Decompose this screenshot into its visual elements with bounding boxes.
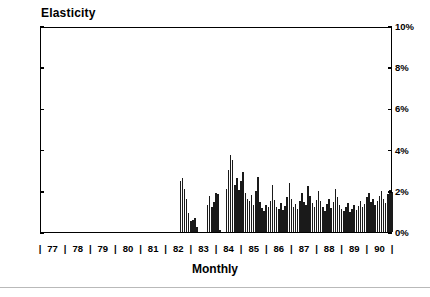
x-axis-separator: | — [114, 243, 117, 254]
y-axis-tick-label-right: 10% — [395, 21, 414, 32]
x-axis-tick-label: 82 — [173, 243, 184, 254]
x-axis-caption: Monthly — [0, 262, 430, 276]
bar — [217, 194, 219, 232]
bar-series — [41, 28, 391, 232]
x-axis-labels: |77|78|79|80|81|82|83|84|85|86|87|88|89|… — [0, 243, 430, 259]
y-axis-tick-mark — [40, 26, 44, 28]
y-axis-tick-mark — [388, 150, 392, 152]
x-axis-tick-label: 88 — [324, 243, 335, 254]
x-axis-tick-label: 77 — [47, 243, 58, 254]
x-axis-tick-label: 78 — [72, 243, 83, 254]
x-axis-tick-label: 85 — [248, 243, 259, 254]
y-axis-tick-mark — [388, 67, 392, 69]
y-axis-tick-label-right: 0% — [395, 227, 409, 238]
x-axis-tick-label: 83 — [198, 243, 209, 254]
bar — [219, 230, 221, 232]
x-axis-separator: | — [391, 243, 394, 254]
x-axis-tick-label: 80 — [123, 243, 134, 254]
x-axis-tick-label: 84 — [223, 243, 234, 254]
y-axis-tick-mark — [40, 232, 44, 234]
x-axis-separator: | — [240, 243, 243, 254]
chart-figure: Elasticity |77|78|79|80|81|82|83|84|85|8… — [0, 0, 430, 297]
y-axis-tick-label-right: 6% — [395, 103, 409, 114]
x-axis-separator: | — [215, 243, 218, 254]
x-axis-separator: | — [340, 243, 343, 254]
x-axis-separator: | — [190, 243, 193, 254]
x-axis-separator: | — [315, 243, 318, 254]
y-axis-tick-label-right: 4% — [395, 145, 409, 156]
chart-title: Elasticity — [41, 6, 96, 20]
x-axis-separator: | — [139, 243, 142, 254]
y-axis-tick-mark — [40, 191, 44, 193]
x-axis-tick-label: 89 — [349, 243, 360, 254]
x-axis-tick-label: 79 — [98, 243, 109, 254]
y-axis-tick-mark — [388, 109, 392, 111]
x-axis-separator: | — [290, 243, 293, 254]
x-axis-separator: | — [366, 243, 369, 254]
x-axis-tick-label: 86 — [274, 243, 285, 254]
y-axis-tick-mark — [388, 191, 392, 193]
x-axis-tick-label: 90 — [374, 243, 385, 254]
y-axis-tick-mark — [40, 109, 44, 111]
x-axis-separator: | — [89, 243, 92, 254]
bar — [196, 227, 198, 232]
bar — [391, 192, 393, 232]
x-axis-tick-label: 87 — [299, 243, 310, 254]
x-axis-separator: | — [39, 243, 42, 254]
x-axis-tick-label: 81 — [148, 243, 159, 254]
y-axis-tick-mark — [388, 26, 392, 28]
y-axis-tick-label-right: 2% — [395, 186, 409, 197]
x-axis-separator: | — [265, 243, 268, 254]
x-axis-separator: | — [64, 243, 67, 254]
x-axis-separator: | — [164, 243, 167, 254]
plot-area — [40, 27, 392, 233]
y-axis-tick-mark — [40, 67, 44, 69]
y-axis-tick-mark — [40, 150, 44, 152]
bottom-divider — [0, 287, 430, 288]
y-axis-tick-label-right: 8% — [395, 62, 409, 73]
y-axis-tick-mark — [388, 232, 392, 234]
